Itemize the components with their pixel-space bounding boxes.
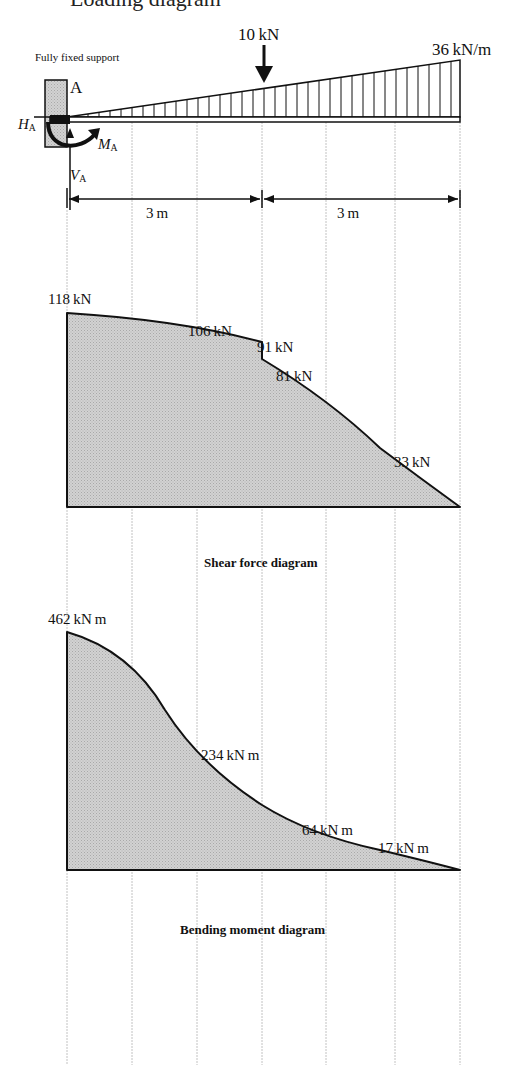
diagram-canvas — [0, 0, 511, 1065]
moment-value-17: 17 kN m — [378, 841, 429, 856]
vertical-reaction-label: VA — [70, 168, 86, 184]
shear-diagram-caption: Shear force diagram — [204, 556, 318, 569]
point-load-label: 10 kN — [238, 26, 279, 43]
moment-diagram-caption: Bending moment diagram — [180, 923, 325, 936]
shear-value-91: 91 kN — [257, 340, 293, 355]
span-2-label: 3 m — [337, 206, 359, 221]
span-1-label: 3 m — [146, 206, 168, 221]
clipped-title: Loading diagram — [70, 0, 221, 10]
moment-value-234: 234 kN m — [201, 748, 260, 763]
shear-value-33: 33 kN — [394, 455, 430, 470]
moment-reaction-label: MA — [98, 137, 118, 153]
span-dimensions — [67, 188, 460, 208]
bending-moment-area — [67, 632, 460, 870]
horizontal-reaction-label: HA — [18, 117, 36, 133]
support-label: Fully fixed support — [35, 52, 119, 63]
point-load-arrow-icon — [255, 45, 273, 83]
shear-value-81: 81 kN — [276, 369, 312, 384]
cantilever-beam — [50, 115, 460, 124]
shear-value-118: 118 kN — [48, 292, 91, 307]
moment-value-462: 462 kN m — [48, 612, 107, 627]
shear-value-106: 106 kN — [188, 324, 232, 339]
moment-value-64: 64 kN m — [302, 823, 353, 838]
point-a-label: A — [70, 79, 82, 96]
fixed-support-wall — [45, 80, 67, 147]
udl-max-label: 36 kN/m — [432, 41, 491, 58]
